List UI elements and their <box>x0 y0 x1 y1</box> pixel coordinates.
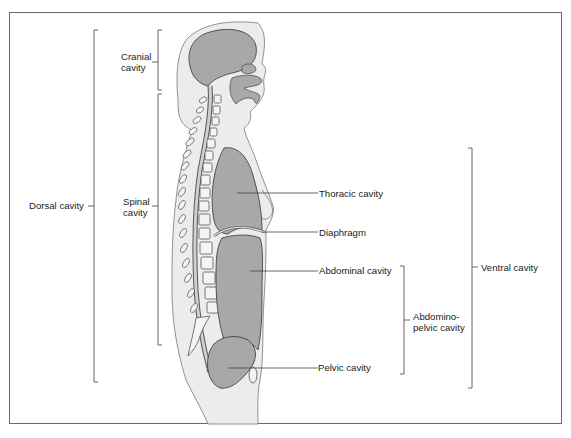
label-abdomino-line2: pelvic cavity <box>413 322 465 333</box>
pubic-bone <box>249 367 257 383</box>
label-cranial-line2: cavity <box>121 62 151 73</box>
label-thoracic-cavity: Thoracic cavity <box>319 188 383 199</box>
label-abdominal-cavity: Abdominal cavity <box>319 265 392 276</box>
anatomy-illustration <box>0 0 571 438</box>
label-spinal-line1: Spinal <box>123 196 150 207</box>
label-dorsal-cavity: Dorsal cavity <box>29 200 84 211</box>
label-pelvic-cavity: Pelvic cavity <box>318 362 371 373</box>
nasal-cavity <box>242 64 256 74</box>
abdominal-cavity <box>216 235 263 350</box>
label-cranial-line1: Cranial <box>121 51 151 62</box>
label-ventral-cavity: Ventral cavity <box>481 262 538 273</box>
label-abdomino-line1: Abdomino- <box>413 311 465 322</box>
label-abdominopelvic-cavity: Abdomino- pelvic cavity <box>413 311 465 333</box>
label-spinal-line2: cavity <box>123 207 150 218</box>
label-cranial-cavity: Cranial cavity <box>121 51 151 73</box>
label-diaphragm: Diaphragm <box>319 227 366 238</box>
label-spinal-cavity: Spinal cavity <box>123 196 150 218</box>
